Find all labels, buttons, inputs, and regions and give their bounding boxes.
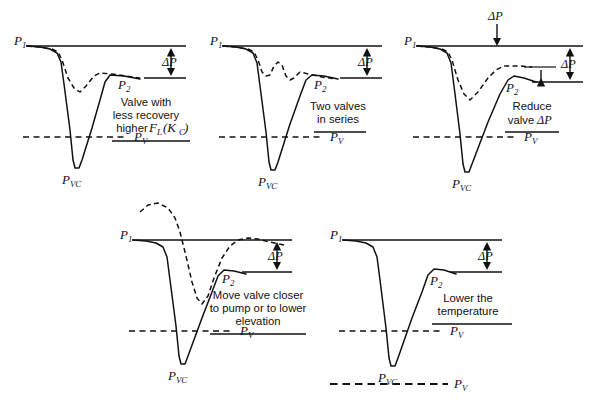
pv-label: P — [449, 323, 458, 338]
panel-1-caption-line-1: Valve with — [121, 96, 172, 108]
delta-p-caption-symbol: ΔP — [536, 113, 552, 127]
p1-label-sub: 1 — [22, 40, 26, 50]
pvc-label-sub: VC — [266, 181, 277, 191]
p1-label: P — [403, 33, 412, 48]
panel-2-caption-line-2: in series — [317, 113, 359, 125]
delta-p-label: ΔP — [477, 249, 493, 263]
pvc-label: P — [451, 176, 460, 191]
cavitation-remedy-diagram: P V ΔP P 1 P 2 P VC Valve with less reco… — [0, 0, 602, 405]
p2-label: P — [117, 77, 126, 92]
p1-label: P — [329, 227, 338, 242]
panel-4-caption-line-3: elevation — [235, 315, 280, 327]
panel-1-caption-line-3: higher — [116, 122, 148, 134]
pvc-label: P — [61, 172, 70, 187]
pvc-label: P — [257, 174, 266, 189]
panel-4-caption-line-1: Move valve closer — [213, 289, 304, 301]
p2-label-sub: 2 — [126, 84, 131, 94]
panel-5-caption-line-2: temperature — [438, 305, 499, 317]
p2-label-sub: 2 — [514, 87, 519, 97]
pvc-label: P — [377, 370, 386, 385]
panel-3-caption-formula: valve ΔP — [508, 113, 552, 127]
p1-label-sub: 1 — [128, 234, 132, 244]
figure-root: P V ΔP P 1 P 2 P VC Valve with less reco… — [0, 0, 602, 405]
p2-label-sub: 2 — [438, 280, 443, 290]
p2-label: P — [313, 77, 322, 92]
p2-label-sub: 2 — [230, 278, 235, 288]
panel-3-caption-line-1: Reduce — [513, 100, 552, 112]
delta-p-label: ΔP — [267, 249, 283, 263]
pvc-label-sub: VC — [176, 375, 187, 385]
p1-label: P — [209, 33, 218, 48]
delta-p-label: ΔP — [161, 55, 177, 69]
p1-label-sub: 1 — [338, 234, 342, 244]
delta-p-label: ΔP — [560, 57, 576, 71]
canvas-background — [0, 0, 602, 405]
delta-p-upper-label: ΔP — [487, 9, 503, 23]
panel-5-caption-line-1: Lower the — [443, 292, 493, 304]
pvc-label-sub: VC — [386, 377, 397, 387]
p2-label-sub: 2 — [322, 84, 327, 94]
p1-label-sub: 1 — [412, 40, 416, 50]
panel-3-caption-line-2: valve — [508, 114, 534, 126]
pvc-label: P — [167, 368, 176, 383]
delta-p-label: ΔP — [357, 55, 373, 69]
kc-open-paren: (K — [163, 120, 177, 135]
panel-4-caption-line-2: to pump or to lower — [210, 302, 307, 314]
fl-symbol-sub: L — [156, 127, 162, 137]
p2-label: P — [505, 80, 514, 95]
p1-label: P — [119, 227, 128, 242]
kc-close-paren: ) — [183, 120, 188, 135]
p1-label-sub: 1 — [218, 40, 222, 50]
panel-2-caption-line-1: Two valves — [310, 100, 366, 112]
pvc-label-sub: VC — [460, 183, 471, 193]
p2-label: P — [221, 271, 230, 286]
pvc-label-sub: VC — [70, 179, 81, 189]
pv-lowered-label: P — [453, 376, 462, 391]
p1-label: P — [13, 33, 22, 48]
p2-label: P — [429, 273, 438, 288]
